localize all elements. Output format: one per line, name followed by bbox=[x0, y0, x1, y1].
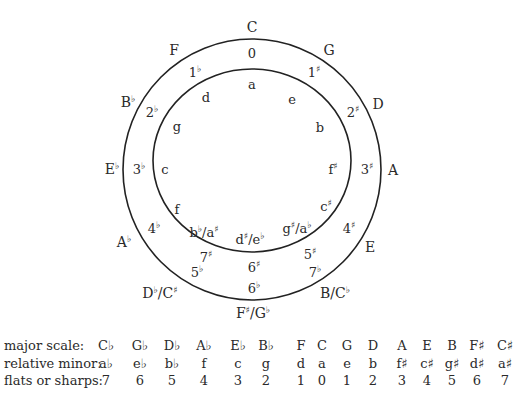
label-base: b bbox=[316, 120, 324, 135]
label-base: E bbox=[105, 161, 115, 177]
accidental-count-label: 6♭ bbox=[248, 282, 261, 295]
table-cell: 3 bbox=[234, 373, 242, 388]
flat-icon: ♭ bbox=[199, 264, 203, 274]
accidental-count-label: 4♯ bbox=[343, 222, 356, 235]
table-cell: C♯ bbox=[497, 338, 513, 353]
accidental-count-label: 7♭ bbox=[309, 266, 322, 279]
table-cell: G bbox=[342, 338, 352, 353]
table-cell: F bbox=[296, 338, 305, 353]
minor-key-label: g♯/a♭ bbox=[282, 222, 311, 235]
label-base: B/C bbox=[320, 285, 346, 301]
label-base: C bbox=[247, 19, 258, 35]
label-base: B bbox=[121, 94, 131, 110]
table-cell: e♭ bbox=[133, 356, 147, 371]
minor-key-label: c♯ bbox=[320, 200, 332, 213]
table-cell: f bbox=[202, 356, 207, 371]
sharp-icon: ♯ bbox=[369, 161, 373, 171]
label-base: E bbox=[365, 239, 375, 255]
sharp-icon: ♯ bbox=[351, 220, 355, 230]
table-cell: D♭ bbox=[164, 338, 181, 353]
table-cell: 4 bbox=[423, 373, 431, 388]
minor-key-label: f bbox=[175, 203, 180, 216]
label-base: f bbox=[175, 202, 180, 217]
sharp-icon: ♯ bbox=[312, 246, 316, 256]
label-base: D bbox=[142, 285, 153, 301]
row-relative-minor: relative minor: a♭e♭b♭fcgdaebf♯c♯g♯d♯a♯ bbox=[0, 356, 530, 373]
flat-icon: ♭ bbox=[127, 234, 131, 244]
table-cell: g♯ bbox=[445, 356, 460, 371]
table-cell: B bbox=[447, 338, 457, 353]
accidental-count-label: 2♭ bbox=[146, 106, 159, 119]
row-major-scale: major scale: C♭G♭D♭A♭E♭B♭FCGDAEBF♯C♯ bbox=[0, 338, 530, 355]
minor-key-label: d bbox=[202, 91, 210, 104]
table-cell: 6 bbox=[136, 373, 144, 388]
circle-lines bbox=[0, 0, 530, 320]
label-base: c bbox=[161, 162, 168, 177]
table-cell: 1 bbox=[343, 373, 351, 388]
label-base: a bbox=[248, 77, 256, 92]
flat-icon: ♭ bbox=[346, 285, 350, 295]
label-enharmonic: /C bbox=[158, 285, 173, 301]
table-cell: 7 bbox=[501, 373, 509, 388]
table-cell: 4 bbox=[200, 373, 208, 388]
major-key-label: C bbox=[247, 20, 258, 34]
table-cell: a♯ bbox=[498, 356, 512, 371]
minor-key-label: d♯/e♭ bbox=[235, 233, 264, 246]
label-base: G bbox=[323, 42, 334, 58]
accidental-count-label: 3♯ bbox=[361, 163, 374, 176]
sharp-icon: ♯ bbox=[316, 64, 320, 74]
inner-circle bbox=[153, 69, 351, 252]
sharp-icon: ♯ bbox=[256, 259, 260, 269]
major-key-label: B/C♭ bbox=[320, 286, 350, 300]
flat-icon: ♭ bbox=[256, 280, 260, 290]
table-cell: g bbox=[262, 356, 270, 371]
table-cell: 0 bbox=[318, 373, 326, 388]
label-enharmonic: /e bbox=[248, 232, 260, 247]
sharp-icon: ♯ bbox=[208, 249, 212, 259]
table-cell: d♯ bbox=[470, 356, 485, 371]
table-cell: a♭ bbox=[99, 356, 113, 371]
table-cell: 3 bbox=[398, 373, 406, 388]
table-cell: b bbox=[369, 356, 377, 371]
table-cell: C♭ bbox=[98, 338, 114, 353]
major-key-label: E bbox=[365, 240, 375, 254]
table-cell: D bbox=[368, 338, 378, 353]
table-cell: 2 bbox=[369, 373, 377, 388]
label-base: F bbox=[169, 42, 179, 58]
flat-icon: ♭ bbox=[197, 64, 201, 74]
label-base: A bbox=[388, 162, 398, 178]
row-header: major scale: bbox=[4, 338, 84, 353]
flat-icon: ♭ bbox=[115, 161, 119, 171]
table-cell: 1 bbox=[297, 373, 305, 388]
label-enharmonic: /G bbox=[250, 305, 266, 321]
accidental-count-label: 1♭ bbox=[189, 66, 202, 79]
table-cell: E♭ bbox=[230, 338, 246, 353]
table-cell: E bbox=[422, 338, 432, 353]
minor-key-label: f♯ bbox=[328, 163, 337, 176]
accidental-count-label: 1♯ bbox=[308, 66, 321, 79]
minor-key-label: c bbox=[161, 163, 168, 176]
flat-icon: ♭ bbox=[154, 104, 158, 114]
accidental-count-label: 7♯ bbox=[200, 251, 213, 264]
table-cell: 2 bbox=[262, 373, 270, 388]
minor-key-label: b bbox=[316, 121, 324, 134]
accidental-count-label: 5♭ bbox=[191, 266, 204, 279]
minor-key-label: a bbox=[248, 78, 256, 91]
label-base: g bbox=[173, 119, 181, 134]
table-cell: c♯ bbox=[420, 356, 434, 371]
table-cell: e bbox=[343, 356, 351, 371]
flat-icon: ♭ bbox=[317, 264, 321, 274]
row-header: relative minor: bbox=[4, 356, 102, 371]
table-cell: a bbox=[318, 356, 326, 371]
major-key-label: B♭ bbox=[121, 95, 136, 109]
table-cell: 5 bbox=[448, 373, 456, 388]
major-key-label: G bbox=[323, 43, 334, 57]
row-flats-or-sharps: flats or sharps: 765432101234567 bbox=[0, 373, 530, 390]
flat-icon: ♭ bbox=[141, 161, 145, 171]
label-enharmonic: /a bbox=[202, 225, 214, 240]
major-key-label: D♭/C♯ bbox=[142, 286, 177, 300]
accidental-count-label: 6♯ bbox=[248, 261, 261, 274]
table-cell: G♭ bbox=[132, 338, 149, 353]
label-base: e bbox=[288, 92, 296, 107]
minor-key-label: e bbox=[288, 93, 296, 106]
